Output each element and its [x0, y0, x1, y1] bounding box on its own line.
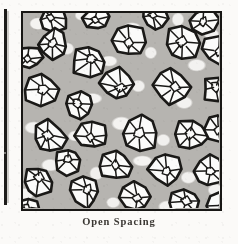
adjacent-figure-interior [7, 11, 9, 203]
micrograph-panel [21, 11, 222, 211]
figure-root: Open Spacing [0, 0, 238, 244]
paper-speck [4, 152, 6, 154]
figure-caption: Open Spacing [0, 216, 238, 227]
halftone-screen-overlay [23, 13, 220, 209]
